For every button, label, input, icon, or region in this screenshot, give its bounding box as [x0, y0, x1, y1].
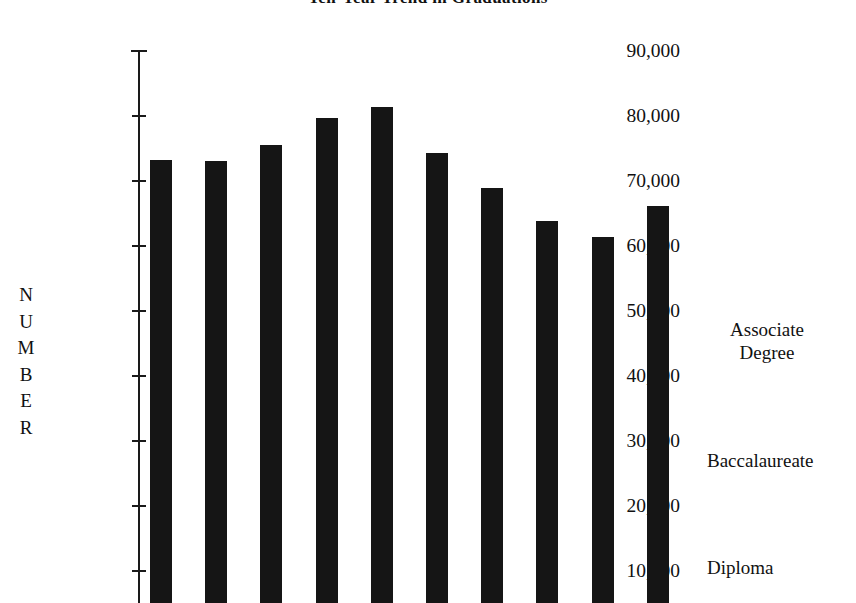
legend-label: AssociateDegree: [707, 318, 827, 364]
bar: [481, 188, 503, 603]
y-axis-tick-label: 80,000: [560, 106, 680, 126]
y-axis-tick: [132, 180, 146, 182]
y-axis-tick: [132, 570, 146, 572]
legend-label: Diploma: [707, 556, 774, 579]
y-axis-tick: [132, 440, 146, 442]
y-axis-line: [138, 51, 140, 603]
bar: [316, 118, 338, 603]
legend-label-line: Associate: [707, 318, 827, 341]
y-axis-tick: [131, 50, 147, 52]
chart-title: Ten-Year Trend in Graduations: [0, 0, 856, 8]
y-axis-title-letter: E: [14, 388, 38, 415]
bar: [592, 237, 614, 603]
y-axis-tick-label: 90,000: [560, 41, 680, 61]
y-axis-tick: [132, 375, 146, 377]
y-axis-tick-label: 70,000: [560, 171, 680, 191]
plot-area: 90,00080,00070,00060,00050,00040,00030,0…: [138, 40, 698, 603]
bar: [536, 221, 558, 603]
y-axis-title: NUMBER: [14, 282, 38, 441]
y-axis-title-letter: B: [14, 362, 38, 389]
y-axis-tick: [132, 310, 146, 312]
y-axis-title-letter: N: [14, 282, 38, 309]
y-axis-title-letter: U: [14, 309, 38, 336]
bar: [150, 160, 172, 603]
y-axis-tick: [132, 115, 146, 117]
chart-root: Ten-Year Trend in Graduations 90,00080,0…: [0, 0, 856, 603]
bar: [260, 145, 282, 603]
legend-label-line: Degree: [707, 341, 827, 364]
y-axis-tick: [132, 505, 146, 507]
legend-label-line: Diploma: [707, 556, 774, 579]
legend-label-line: Baccalaureate: [707, 449, 814, 472]
bar: [647, 206, 669, 603]
bar: [205, 161, 227, 603]
y-axis-title-letter: R: [14, 415, 38, 442]
bar: [426, 153, 448, 603]
bar: [371, 107, 393, 603]
y-axis-title-letter: M: [14, 335, 38, 362]
y-axis-tick: [132, 245, 146, 247]
legend-label: Baccalaureate: [707, 449, 814, 472]
